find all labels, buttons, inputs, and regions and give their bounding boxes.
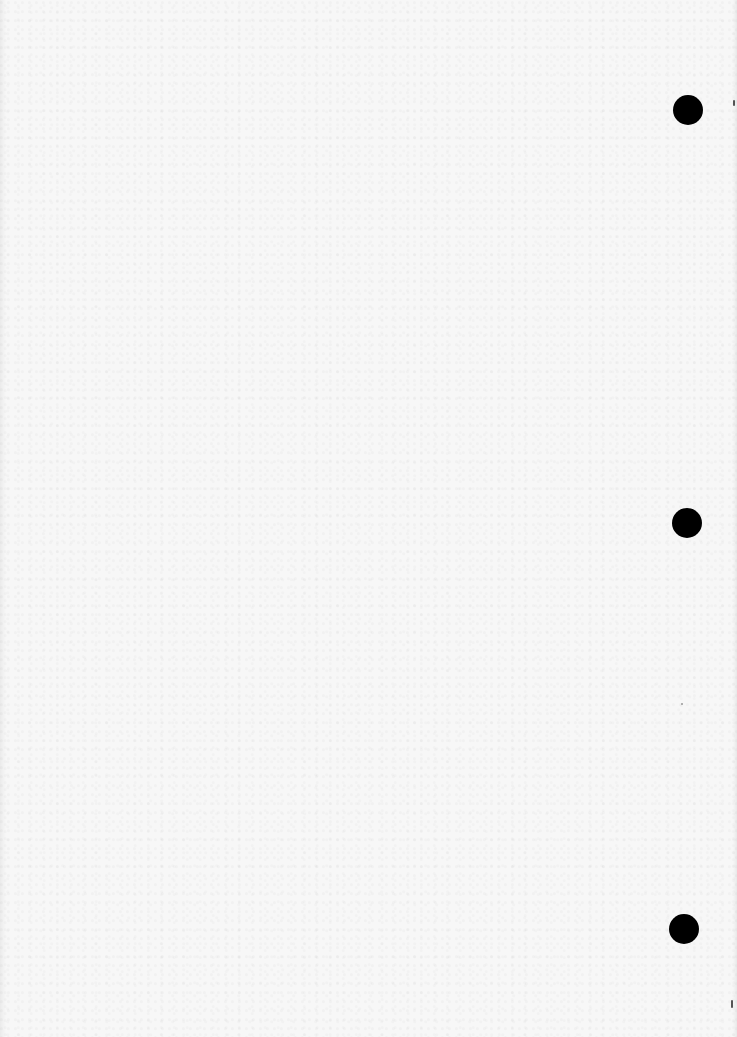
punch-hole-middle xyxy=(672,508,702,538)
punch-hole-bottom xyxy=(669,914,699,944)
dust-speck xyxy=(681,703,683,705)
scanned-page xyxy=(0,0,737,1037)
page-edge-shadow xyxy=(733,0,737,1037)
punch-hole-top xyxy=(673,95,703,125)
